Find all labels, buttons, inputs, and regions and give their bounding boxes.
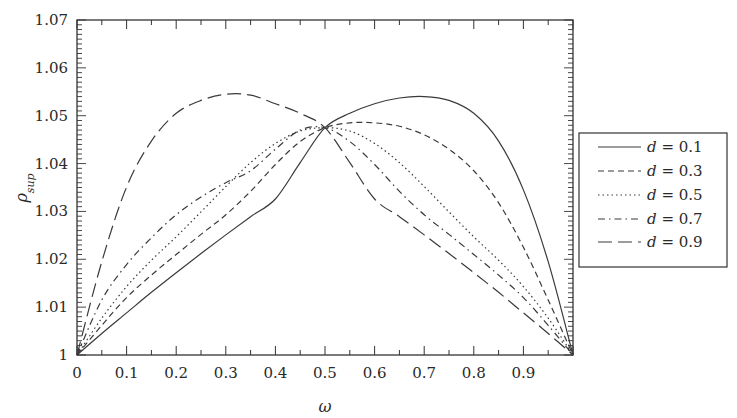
curve-d-0-3 <box>77 122 573 355</box>
y-tick-label: 1.03 <box>35 202 68 220</box>
x-tick-label: 0.9 <box>511 364 535 382</box>
legend-label: d = 0.5 <box>647 186 703 204</box>
curve-d-0-1 <box>77 96 573 355</box>
plot-frame <box>77 20 573 355</box>
x-tick-label: 0.5 <box>313 364 337 382</box>
y-tick-label: 1.01 <box>35 298 68 316</box>
y-tick-labels: 11.011.021.031.041.051.061.07 <box>35 11 68 364</box>
x-axis-label: ω <box>318 397 331 416</box>
x-tick-label: 0 <box>72 364 82 382</box>
y-tick-label: 1.02 <box>35 250 68 268</box>
y-tick-label: 1 <box>58 346 68 364</box>
chart: 00.10.20.30.40.50.60.70.80.9 11.011.021.… <box>0 0 737 418</box>
y-tick-label: 1.07 <box>35 11 68 29</box>
curves <box>77 94 573 355</box>
x-tick-label: 0.1 <box>115 364 139 382</box>
curve-d-0-9 <box>77 94 573 355</box>
curve-d-0-5 <box>77 128 573 355</box>
curve-d-0-7 <box>77 127 573 355</box>
x-tick-label: 0.6 <box>363 364 387 382</box>
x-tick-label: 0.8 <box>462 364 486 382</box>
x-tick-label: 0.2 <box>164 364 188 382</box>
y-tick-label: 1.06 <box>35 59 68 77</box>
legend-label: d = 0.3 <box>647 162 703 180</box>
legend-label: d = 0.1 <box>647 138 703 156</box>
legend: d = 0.1d = 0.3d = 0.5d = 0.7d = 0.9 <box>579 133 727 267</box>
legend-label: d = 0.9 <box>647 233 703 251</box>
x-tick-label: 0.3 <box>214 364 238 382</box>
svg-text:ρsup: ρsup <box>12 173 37 203</box>
axis-ticks <box>77 20 573 355</box>
y-axis-label: ρsup <box>12 173 37 203</box>
x-tick-labels: 00.10.20.30.40.50.60.70.80.9 <box>72 364 535 382</box>
x-tick-label: 0.7 <box>412 364 436 382</box>
y-tick-label: 1.05 <box>35 107 68 125</box>
x-tick-label: 0.4 <box>263 364 287 382</box>
y-tick-label: 1.04 <box>35 155 68 173</box>
legend-label: d = 0.7 <box>647 210 703 228</box>
